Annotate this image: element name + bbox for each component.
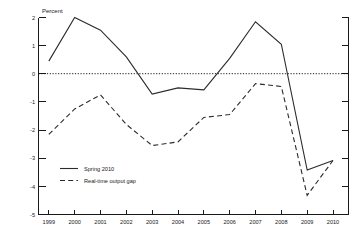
y-tick-label: -5 [30, 212, 35, 218]
y-axis-title: Percent [42, 8, 63, 14]
x-tick-label: 2007 [249, 219, 261, 225]
output-gap-line-chart: 2 1 0 -1 -2 -3 -4 -5 Percent 19992000200… [0, 0, 362, 243]
y-tick-label: -3 [30, 155, 35, 161]
x-tick-label: 2005 [198, 219, 210, 225]
chart-axes [39, 18, 349, 215]
x-tick-label: 2002 [120, 219, 132, 225]
y-tick-label: -2 [30, 127, 35, 133]
x-tick-label: 2008 [275, 219, 287, 225]
legend-label-real-time-output-gap: Real-time output gap [84, 178, 136, 184]
x-tick-marks [49, 210, 333, 215]
x-tick-label: 2003 [146, 219, 158, 225]
x-tick-labels: 1999200020012002200320042005200620072008… [43, 219, 340, 225]
chart-canvas: 2 1 0 -1 -2 -3 -4 -5 Percent 19992000200… [0, 0, 362, 243]
y-tick-label: 1 [32, 43, 35, 49]
x-tick-label: 2010 [327, 219, 339, 225]
y-tick-label: 2 [32, 15, 35, 21]
x-tick-label: 2009 [301, 219, 313, 225]
chart-legend: Spring 2010 Real-time output gap [60, 166, 136, 184]
x-tick-label: 2006 [223, 219, 235, 225]
y-tick-label: -1 [30, 99, 35, 105]
x-tick-label: 1999 [43, 219, 55, 225]
x-tick-label: 2000 [68, 219, 80, 225]
x-tick-label: 2001 [94, 219, 106, 225]
y-tick-marks [39, 18, 349, 215]
series-line-spring-2010 [49, 18, 333, 171]
legend-label-spring-2010: Spring 2010 [84, 166, 114, 172]
y-tick-label: -4 [30, 184, 35, 190]
y-tick-labels: 2 1 0 -1 -2 -3 -4 -5 [30, 15, 35, 218]
y-tick-label: 0 [32, 71, 35, 77]
x-tick-label: 2004 [172, 219, 184, 225]
